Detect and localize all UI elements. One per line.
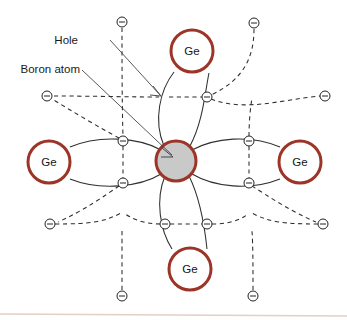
electron-left-lower bbox=[118, 178, 128, 188]
outer-electron-left-lower bbox=[45, 219, 55, 229]
ge-top-label: Ge bbox=[184, 45, 199, 57]
lattice-diagram: Ge Ge Ge Ge bbox=[0, 0, 347, 320]
ge-left: Ge bbox=[28, 141, 70, 183]
electron-bottom-right bbox=[202, 219, 212, 229]
electron-top-right bbox=[202, 92, 212, 102]
electron-left-upper bbox=[118, 136, 128, 146]
outer-electron-right-lower bbox=[318, 219, 328, 229]
outer-electron-bottom-right bbox=[248, 291, 258, 301]
outer-electron-right-upper bbox=[320, 91, 330, 101]
ge-right: Ge bbox=[279, 141, 321, 183]
ge-left-label: Ge bbox=[41, 156, 56, 168]
boron-atom-label: Boron atom bbox=[21, 63, 80, 75]
lattice-svg: Ge Ge Ge Ge bbox=[0, 0, 347, 320]
electron-right-lower bbox=[244, 178, 254, 188]
outer-electron-bottom-left bbox=[117, 291, 127, 301]
outer-electron-left-upper bbox=[42, 91, 52, 101]
ge-bottom: Ge bbox=[169, 248, 211, 290]
ge-top: Ge bbox=[171, 30, 213, 72]
boron-atom-circle bbox=[156, 141, 196, 181]
outer-electron-top-left bbox=[117, 17, 127, 27]
ge-bottom-label: Ge bbox=[182, 263, 197, 275]
hole-label: Hole bbox=[54, 34, 78, 46]
ge-right-label: Ge bbox=[292, 156, 307, 168]
electron-right-upper bbox=[244, 136, 254, 146]
outer-electron-top-right bbox=[249, 18, 259, 28]
electron-bottom-left bbox=[160, 219, 170, 229]
boron-atom bbox=[156, 141, 196, 181]
